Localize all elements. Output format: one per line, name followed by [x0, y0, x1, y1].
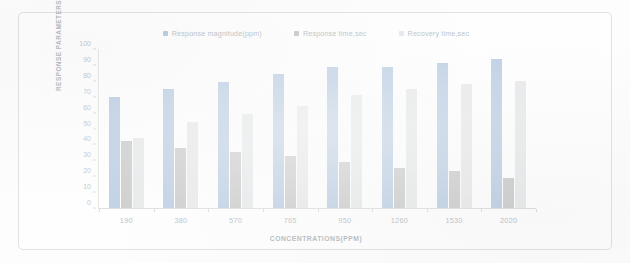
- x-axis-tick-labels: 190380570765950126015302020: [99, 216, 536, 225]
- y-axis-tick-mark: [93, 49, 96, 50]
- y-axis-tick-mark: [93, 80, 96, 81]
- bar-group: [481, 49, 536, 208]
- x-axis-tick-mark: [208, 209, 209, 212]
- square-marker-icon: [163, 31, 168, 36]
- scanned-figure-page: Response magnitude(ppm) Response time,se…: [0, 0, 630, 263]
- y-axis-tick-mark: [93, 208, 96, 209]
- x-axis-tick-label: 1260: [372, 216, 427, 225]
- x-axis-tick-mark: [154, 209, 155, 212]
- x-axis-tick-label: 190: [99, 216, 154, 225]
- bar: [109, 97, 120, 208]
- y-axis-tick-mark: [93, 128, 96, 129]
- bar: [394, 168, 405, 208]
- y-axis-tick-label: 40: [83, 135, 91, 142]
- bar: [187, 122, 198, 208]
- y-axis-tick-label: 60: [83, 103, 91, 110]
- bar: [382, 67, 393, 209]
- bar: [285, 156, 296, 208]
- y-axis-tick-label: 30: [83, 151, 91, 158]
- y-axis-tick-label: 90: [83, 55, 91, 62]
- bar: [327, 67, 338, 209]
- legend-item-label: Recovery time,sec: [408, 29, 470, 38]
- bar-group: [208, 49, 263, 208]
- x-axis-tick-label: 570: [208, 216, 263, 225]
- bar: [449, 171, 460, 208]
- x-axis-tick-mark: [536, 209, 537, 212]
- x-axis-tick-label: 950: [318, 216, 373, 225]
- y-axis-tick-label: 20: [83, 167, 91, 174]
- x-axis-tick-mark: [263, 209, 264, 212]
- bar-group: [263, 49, 318, 208]
- bar: [133, 138, 144, 208]
- bar: [297, 106, 308, 208]
- x-axis-tick-mark: [318, 209, 319, 212]
- y-axis-title: RESPONSE PARAMETERS: [55, 0, 62, 91]
- x-axis-tick-mark: [427, 209, 428, 212]
- bar-group: [372, 49, 427, 208]
- x-axis-tick-mark: [99, 209, 100, 212]
- x-axis-tick-label: 765: [263, 216, 318, 225]
- y-axis-tick-mark: [93, 144, 96, 145]
- y-axis-tick-mark: [93, 176, 96, 177]
- plot-area: 1009080706050403020100: [98, 49, 536, 209]
- bar: [175, 148, 186, 208]
- bar: [230, 152, 241, 208]
- bar-groups: [99, 49, 536, 208]
- x-axis-tick-label: 1530: [427, 216, 482, 225]
- x-axis-tick-mark: [372, 209, 373, 212]
- bar-group: [99, 49, 154, 208]
- y-axis-tick-label: 10: [83, 183, 91, 190]
- bar: [163, 89, 174, 208]
- chart-frame: Response magnitude(ppm) Response time,se…: [18, 12, 612, 250]
- legend-item-response-magnitude: Response magnitude(ppm): [163, 29, 262, 38]
- bar: [351, 95, 362, 208]
- bar-group: [154, 49, 209, 208]
- bar: [218, 82, 229, 208]
- y-axis-tick-label: 0: [87, 199, 91, 206]
- y-axis-tick-mark: [93, 192, 96, 193]
- bar: [242, 114, 253, 208]
- bar: [121, 141, 132, 208]
- legend-item-label: Response magnitude(ppm): [172, 29, 262, 38]
- y-axis-tick-label: 70: [83, 87, 91, 94]
- bar: [515, 81, 526, 208]
- bar: [461, 84, 472, 208]
- y-axis-tick-label: 80: [83, 71, 91, 78]
- bar: [437, 63, 448, 208]
- y-axis-tick-mark: [93, 96, 96, 97]
- square-marker-icon: [399, 31, 404, 36]
- y-axis-tick-mark: [93, 64, 96, 65]
- bar-group: [427, 49, 482, 208]
- legend-item-label: Response time,sec: [303, 29, 367, 38]
- chart-legend: Response magnitude(ppm) Response time,se…: [19, 29, 613, 38]
- y-axis-tick-mark: [93, 112, 96, 113]
- legend-item-response-time: Response time,sec: [294, 29, 367, 38]
- bar: [273, 74, 284, 208]
- y-axis-tick-mark: [93, 160, 96, 161]
- bar: [491, 59, 502, 208]
- legend-item-recovery-time: Recovery time,sec: [399, 29, 470, 38]
- x-axis-title: CONCENTRATIONS(PPM): [19, 235, 613, 242]
- x-axis-tick-label: 2020: [481, 216, 536, 225]
- y-axis-tick-label: 100: [79, 40, 91, 47]
- x-axis-tick-mark: [481, 209, 482, 212]
- y-axis-tick-label: 50: [83, 119, 91, 126]
- bar-group: [318, 49, 373, 208]
- bar: [339, 162, 350, 208]
- square-marker-icon: [294, 31, 299, 36]
- bar: [406, 89, 417, 208]
- bar: [503, 178, 514, 208]
- x-axis-tick-label: 380: [154, 216, 209, 225]
